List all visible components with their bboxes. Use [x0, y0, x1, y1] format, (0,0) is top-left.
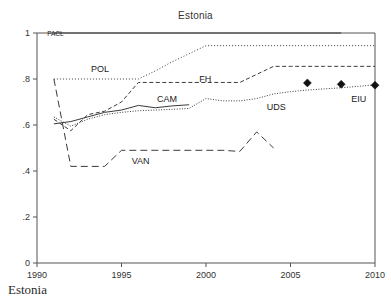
- figure-caption: Estonia: [8, 282, 47, 298]
- y-tick-label: 0: [25, 258, 30, 268]
- series-label-pacl: PACL: [47, 30, 64, 37]
- series-label-cam: CAM: [157, 94, 177, 104]
- x-tick-label: 2000: [196, 270, 216, 280]
- series-line-van: [54, 79, 274, 166]
- chart-plot-area: 0.2.4.6.8119901995200020052010 PACLPOLFH…: [0, 0, 391, 307]
- series-marker-eiu: [337, 80, 345, 88]
- series-marker-eiu: [371, 81, 379, 89]
- series-lines: [54, 33, 379, 166]
- x-tick-label: 1995: [111, 270, 131, 280]
- series-line-pol: [54, 46, 375, 79]
- series-marker-eiu: [303, 79, 311, 87]
- x-tick-label: 2005: [280, 270, 300, 280]
- series-label-eiu: EIU: [351, 94, 366, 104]
- y-tick-label: .2: [22, 212, 30, 222]
- series-label-van: VAN: [132, 156, 150, 166]
- x-tick-label: 1990: [27, 270, 47, 280]
- series-line-cam: [54, 105, 189, 124]
- series-label-fh: FH: [199, 74, 211, 84]
- series-labels: PACLPOLFHCAMUDSVANEIU: [47, 30, 366, 166]
- y-tick-label: .4: [22, 166, 30, 176]
- y-tick-label: .6: [22, 120, 30, 130]
- series-line-uds: [54, 85, 375, 126]
- series-line-fh: [54, 66, 375, 130]
- x-tick-label: 2010: [365, 270, 385, 280]
- chart-figure: Estonia 0.2.4.6.8119901995200020052010 P…: [0, 0, 391, 307]
- plot-frame: [37, 33, 375, 263]
- series-label-pol: POL: [91, 64, 109, 74]
- y-tick-label: 1: [25, 28, 30, 38]
- series-label-uds: UDS: [267, 102, 286, 112]
- y-tick-label: .8: [22, 74, 30, 84]
